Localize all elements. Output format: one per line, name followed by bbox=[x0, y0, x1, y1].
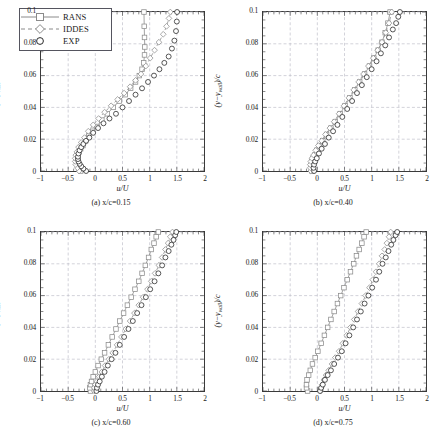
plot-svg-d bbox=[263, 232, 426, 391]
y-tick-label: 0.02 bbox=[0, 136, 36, 143]
x-tick-label: 0 bbox=[80, 175, 110, 182]
panel-d: (y−ywall)/c u/U (d) x/c=0.75 00.020.040.… bbox=[222, 220, 444, 439]
plot-area-d bbox=[262, 231, 427, 392]
x-tick-label: −0.5 bbox=[53, 175, 83, 182]
y-tick-label: 0.1 bbox=[222, 7, 258, 14]
x-tick-label: 1.5 bbox=[163, 175, 193, 182]
x-tick-label: 1 bbox=[135, 175, 165, 182]
x-axis-title-c: u/U bbox=[40, 404, 205, 413]
y-tick-label: 0.02 bbox=[222, 136, 258, 143]
x-tick-label: −1 bbox=[247, 175, 277, 182]
x-tick-label: 0.5 bbox=[108, 175, 138, 182]
y-axis-title-b: (y−ywall)/c bbox=[213, 74, 222, 107]
y-axis-title-d: (y−ywall)/c bbox=[213, 294, 222, 327]
y-tick-label: 0.1 bbox=[222, 227, 258, 234]
y-tick-label: 0.06 bbox=[222, 72, 258, 79]
y-tick-label: 0.02 bbox=[0, 356, 36, 363]
legend-label-exp: EXP bbox=[60, 35, 80, 47]
y-tick-label: 0.04 bbox=[222, 104, 258, 111]
x-axis-title-b: u/U bbox=[262, 184, 427, 193]
x-tick-label: 1 bbox=[135, 395, 165, 402]
x-tick-label: 2 bbox=[412, 395, 442, 402]
panel-c: (y−ywall)/c u/U (c) x/c=0.60 00.020.040.… bbox=[0, 220, 222, 439]
legend-label-rans: RANS bbox=[60, 11, 86, 23]
y-tick-label: 0.04 bbox=[0, 324, 36, 331]
y-tick-label: 0.08 bbox=[222, 39, 258, 46]
x-axis-title-a: u/U bbox=[40, 184, 205, 193]
x-tick-label: 1 bbox=[357, 175, 387, 182]
x-tick-label: 1.5 bbox=[385, 395, 415, 402]
legend-key-iddes bbox=[20, 23, 60, 35]
panel-a: RANS IDDES EXP (y−ywall)/c u/U (a) x/c=0… bbox=[0, 0, 222, 219]
y-tick-label: 0.1 bbox=[0, 227, 36, 234]
plot-area-c bbox=[40, 231, 205, 392]
panel-caption-b: (b) x/c=0.40 bbox=[222, 198, 444, 207]
x-tick-label: 1.5 bbox=[385, 175, 415, 182]
x-tick-label: 2 bbox=[190, 395, 220, 402]
panel-b: (y−ywall)/c u/U (b) x/c=0.40 00.020.040.… bbox=[222, 0, 444, 219]
velocity-profile-figure: RANS IDDES EXP (y−ywall)/c u/U (a) x/c=0… bbox=[0, 0, 444, 439]
x-tick-label: 1 bbox=[357, 395, 387, 402]
x-tick-label: −0.5 bbox=[275, 395, 305, 402]
plot-svg-b bbox=[263, 12, 426, 171]
y-tick-label: 0.08 bbox=[0, 39, 36, 46]
x-tick-label: −1 bbox=[25, 395, 55, 402]
x-tick-label: 2 bbox=[190, 175, 220, 182]
x-axis-title-d: u/U bbox=[262, 404, 427, 413]
plot-svg-c bbox=[41, 232, 204, 391]
legend-label-iddes: IDDES bbox=[60, 23, 89, 35]
y-tick-label: 0.08 bbox=[0, 259, 36, 266]
x-tick-label: −0.5 bbox=[53, 395, 83, 402]
y-tick-label: 0.04 bbox=[0, 104, 36, 111]
panel-caption-d: (d) x/c=0.75 bbox=[222, 418, 444, 427]
x-tick-label: 0 bbox=[302, 395, 332, 402]
x-tick-label: −1 bbox=[25, 175, 55, 182]
x-tick-label: −0.5 bbox=[275, 175, 305, 182]
x-tick-label: 0.5 bbox=[330, 395, 360, 402]
panel-caption-c: (c) x/c=0.60 bbox=[0, 418, 222, 427]
x-tick-label: 1.5 bbox=[163, 395, 193, 402]
y-axis-title-c: (y−ywall)/c bbox=[0, 294, 1, 327]
x-tick-label: 0 bbox=[302, 175, 332, 182]
y-tick-label: 0.06 bbox=[0, 72, 36, 79]
y-tick-label: 0.06 bbox=[222, 292, 258, 299]
y-axis-title-a: (y−ywall)/c bbox=[0, 74, 1, 107]
x-tick-label: 0.5 bbox=[330, 175, 360, 182]
y-tick-label: 0.08 bbox=[222, 259, 258, 266]
x-tick-label: −1 bbox=[247, 395, 277, 402]
legend-entry-iddes: IDDES bbox=[20, 23, 111, 35]
y-tick-label: 0.02 bbox=[222, 356, 258, 363]
y-tick-label: 0.1 bbox=[0, 7, 36, 14]
y-tick-label: 0.04 bbox=[222, 324, 258, 331]
x-tick-label: 0.5 bbox=[108, 395, 138, 402]
x-tick-label: 2 bbox=[412, 175, 442, 182]
x-tick-label: 0 bbox=[80, 395, 110, 402]
panel-caption-a: (a) x/c=0.15 bbox=[0, 198, 222, 207]
y-tick-label: 0.06 bbox=[0, 292, 36, 299]
plot-area-b bbox=[262, 11, 427, 172]
